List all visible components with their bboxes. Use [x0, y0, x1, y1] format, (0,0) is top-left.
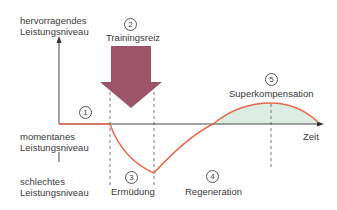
training-stimulus-arrow: [100, 46, 162, 108]
label-top-line2: Leistungsniveau: [20, 26, 89, 37]
label-bottom-line1: schlechtes: [20, 176, 65, 187]
phase-1-number: 1: [79, 106, 92, 119]
phase-5-label: Superkompensation: [229, 88, 314, 99]
phase-3-label: Ermüdung: [111, 186, 155, 197]
x-axis-arrowhead: [317, 122, 324, 127]
phase-2-number: 2: [124, 18, 137, 31]
x-axis-label: Zeit: [303, 131, 319, 142]
phase-4-label: Regeneration: [185, 186, 242, 197]
label-bottom-line2: Leistungsniveau: [20, 187, 89, 198]
phase-2-label: Trainingsreiz: [106, 32, 160, 43]
phase-4-number: 4: [206, 170, 219, 183]
label-middle-line1: momentanes: [20, 131, 75, 142]
label-middle-line2: Leistungsniveau: [20, 142, 89, 153]
label-top-line1: hervorragendes: [20, 15, 87, 26]
y-axis-arrowhead: [57, 36, 62, 43]
phase-5-number: 5: [265, 73, 278, 86]
phase-3-number: 3: [125, 171, 138, 184]
